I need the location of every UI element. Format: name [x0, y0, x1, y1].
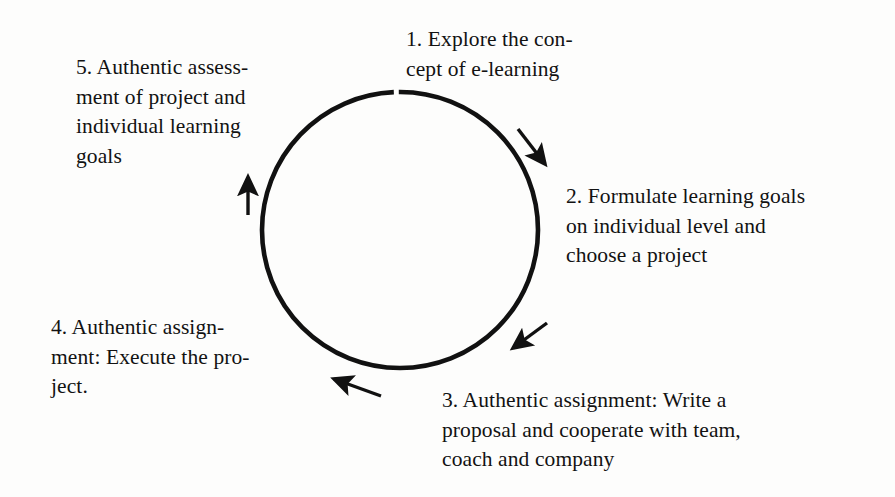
step-label-2: 2. Formulate learning goals on individua… — [566, 182, 895, 271]
step-label-4: 4. Authentic assign- ment: Execute the p… — [51, 313, 301, 402]
step-label-5: 5. Authentic assess- ment of project and… — [76, 53, 326, 171]
arrow-1-to-2-icon — [518, 129, 545, 164]
step-label-1: 1. Explore the con- cept of e-learning — [406, 25, 666, 84]
step-label-3: 3. Authentic assignment: Write a proposa… — [442, 386, 842, 475]
diagram-canvas: 1. Explore the con- cept of e-learning 2… — [0, 0, 895, 497]
arrow-2-to-3-icon — [513, 323, 547, 348]
arrow-3-to-4-icon — [334, 379, 381, 396]
